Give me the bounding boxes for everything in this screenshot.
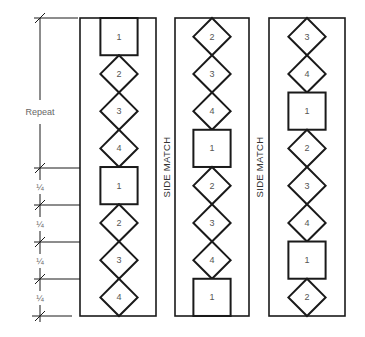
- quarter-label-4: ¼: [36, 293, 44, 303]
- motif-number: 3: [209, 218, 214, 228]
- motif-number: 4: [116, 143, 121, 153]
- motif-number: 4: [304, 218, 309, 228]
- motif-number: 2: [304, 143, 309, 153]
- quarter-label-1: ¼: [36, 182, 44, 192]
- motif-number: 1: [304, 106, 309, 116]
- quarter-label-2: ¼: [36, 219, 44, 229]
- motif-number: 2: [304, 292, 309, 302]
- motif-number: 3: [304, 32, 309, 42]
- motif-number: 1: [209, 292, 214, 302]
- motif-number: 4: [209, 255, 214, 265]
- motif-number: 2: [209, 181, 214, 191]
- motif-number: 2: [116, 218, 121, 228]
- motif-number: 4: [116, 292, 121, 302]
- motif-number: 2: [116, 69, 121, 79]
- motif-number: 1: [209, 143, 214, 153]
- quarter-label-3: ¼: [36, 256, 44, 266]
- motif-number: 1: [116, 32, 121, 42]
- motif-number: 1: [304, 255, 309, 265]
- motif-number: 3: [116, 255, 121, 265]
- motif-number: 3: [209, 69, 214, 79]
- side-match-label-2: SIDE MATCH: [254, 137, 265, 198]
- side-match-label-1: SIDE MATCH: [161, 137, 172, 198]
- motif-number: 4: [209, 106, 214, 116]
- motif-number: 2: [209, 32, 214, 42]
- motif-number: 3: [304, 181, 309, 191]
- motif-number: 4: [304, 69, 309, 79]
- motif-number: 3: [116, 106, 121, 116]
- repeat-label: Repeat: [25, 107, 55, 117]
- motif-number: 1: [116, 181, 121, 191]
- side-match-diagram: Repeat ¼ ¼ ¼ ¼ 12341234 23412341 3412341…: [0, 0, 365, 337]
